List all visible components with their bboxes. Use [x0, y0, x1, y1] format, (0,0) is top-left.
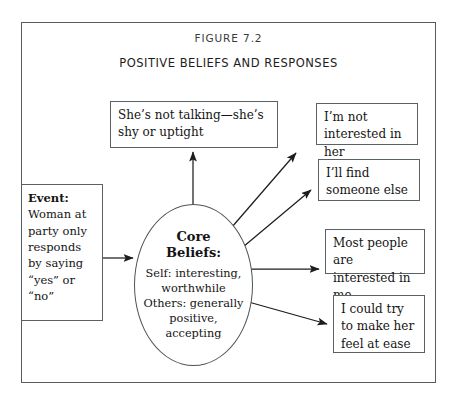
event-box-heading: Event: — [28, 191, 69, 205]
thought-box: She’s not talking—she’s shy or uptight — [110, 101, 278, 148]
response-box-4: I could try to make her feel at ease — [333, 295, 425, 353]
response-box-1: I’m not interested in her — [316, 103, 418, 145]
figure-title: POSITIVE BELIEFS AND RESPONSES — [21, 56, 436, 70]
core-beliefs-line-5: accepting — [144, 326, 244, 341]
event-box-body: Woman at party only responds by saying “… — [28, 207, 87, 303]
response-box-3: Most people are interested in me — [325, 229, 425, 274]
core-beliefs-heading-line2: Beliefs: — [166, 245, 221, 261]
response-box-2: I’ll find someone else — [318, 159, 420, 201]
core-beliefs-line-3: Others: generally — [144, 296, 244, 311]
core-beliefs-line-1: Self: interesting, — [144, 266, 244, 281]
figure-diagram: FIGURE 7.2 POSITIVE BELIEFS AND RESPONSE… — [0, 0, 461, 407]
core-beliefs-heading-line1: Core — [166, 229, 221, 245]
figure-number-label: FIGURE 7.2 — [21, 32, 436, 44]
core-beliefs-heading: Core Beliefs: — [166, 229, 221, 262]
core-beliefs-body: Self: interesting, worthwhile Others: ge… — [144, 266, 244, 341]
core-beliefs-line-4: positive, — [144, 311, 244, 326]
event-box: Event: Woman at party only responds by s… — [22, 184, 103, 321]
core-beliefs-line-2: worthwhile — [144, 281, 244, 296]
core-beliefs-ellipse: Core Beliefs: Self: interesting, worthwh… — [134, 204, 253, 366]
